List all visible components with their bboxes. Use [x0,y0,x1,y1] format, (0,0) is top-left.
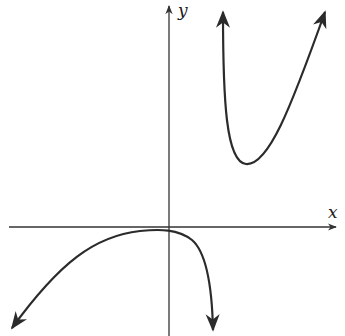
curve-right-branch [223,12,325,164]
x-axis-label: x [328,204,338,221]
curve-left-branch [12,230,213,330]
y-axis-label: y [178,2,188,19]
function-graph [0,0,345,336]
